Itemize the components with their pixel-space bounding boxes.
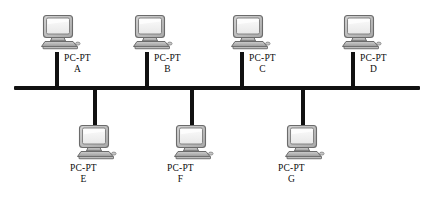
bus-backbone-line bbox=[14, 86, 420, 90]
node-model-text: PC-PT bbox=[249, 53, 276, 64]
node-label-c: PC-PTC bbox=[249, 53, 276, 75]
node-model-text: PC-PT bbox=[70, 163, 97, 174]
node-model-text: PC-PT bbox=[64, 53, 91, 64]
pc-workstation-icon[interactable] bbox=[36, 12, 82, 52]
pc-workstation-icon[interactable] bbox=[280, 122, 326, 162]
pc-workstation-icon[interactable] bbox=[169, 122, 215, 162]
node-model-text: PC-PT bbox=[167, 163, 194, 174]
node-f[interactable] bbox=[169, 122, 215, 162]
pc-workstation-icon[interactable] bbox=[226, 12, 272, 52]
node-model-text: PC-PT bbox=[154, 53, 181, 64]
node-model-text: PC-PT bbox=[278, 163, 305, 174]
node-label-f: PC-PTF bbox=[167, 163, 194, 185]
node-a[interactable] bbox=[36, 12, 82, 52]
node-label-a: PC-PTA bbox=[64, 53, 91, 75]
node-g[interactable] bbox=[280, 122, 326, 162]
node-c[interactable] bbox=[226, 12, 272, 52]
node-label-d: PC-PTD bbox=[360, 53, 387, 75]
node-label-e: PC-PTE bbox=[70, 163, 97, 185]
pc-workstation-icon[interactable] bbox=[337, 12, 383, 52]
node-b[interactable] bbox=[128, 12, 174, 52]
node-name-text: A bbox=[64, 64, 91, 75]
pc-workstation-icon[interactable] bbox=[72, 122, 118, 162]
drop-line-b bbox=[145, 52, 149, 88]
drop-line-c bbox=[240, 52, 244, 88]
node-name-text: F bbox=[167, 174, 194, 185]
node-d[interactable] bbox=[337, 12, 383, 52]
drop-line-a bbox=[55, 52, 59, 88]
node-name-text: C bbox=[249, 64, 276, 75]
node-e[interactable] bbox=[72, 122, 118, 162]
node-name-text: G bbox=[278, 174, 305, 185]
drop-line-d bbox=[351, 52, 355, 88]
node-model-text: PC-PT bbox=[360, 53, 387, 64]
node-name-text: D bbox=[360, 64, 387, 75]
bus-topology-diagram: PC-PTA PC bbox=[0, 0, 427, 198]
node-label-g: PC-PTG bbox=[278, 163, 305, 185]
node-name-text: B bbox=[154, 64, 181, 75]
pc-workstation-icon[interactable] bbox=[128, 12, 174, 52]
node-name-text: E bbox=[70, 174, 97, 185]
node-label-b: PC-PTB bbox=[154, 53, 181, 75]
